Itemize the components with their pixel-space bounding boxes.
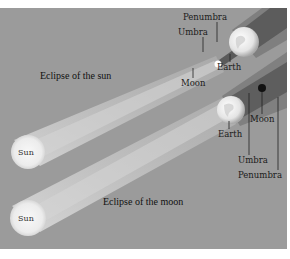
lower-earth-label: Earth [218,129,243,139]
eclipse-of-sun-title: Eclipse of the sun [40,70,111,81]
sun-upper-label: Sun [18,148,34,157]
lower-moon-label: Moon [250,114,275,124]
upper-penumbra-label: Penumbra [183,12,227,22]
moon-lower [258,84,266,92]
upper-umbra-label: Umbra [178,27,208,37]
eclipse-of-moon-title: Eclipse of the moon [103,196,183,207]
sun-lower-label: Sun [18,214,34,223]
upper-earth-label: Earth [217,62,242,72]
upper-moon-label: Moon [181,78,206,88]
lower-umbra-label: Umbra [238,155,268,165]
eclipse-diagram: Sun Eclipse of the sun Penumbra Umbra Ea… [0,0,290,259]
lower-penumbra-label: Penumbra [238,170,282,180]
